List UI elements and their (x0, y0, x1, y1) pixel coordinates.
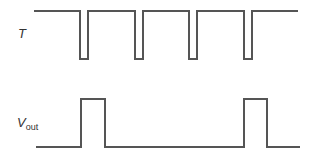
signal-label-t: T (18, 26, 27, 41)
signal-label-vout: Vout (17, 115, 39, 132)
waveform-t (34, 11, 298, 59)
waveform-vout (36, 99, 300, 147)
timing-diagram: T Vout (0, 0, 332, 155)
